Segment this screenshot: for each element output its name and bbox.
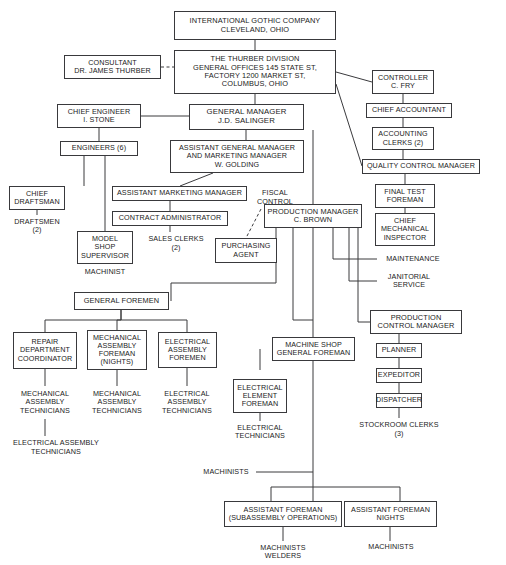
org-node-mechanical-assembly-technicians-2: MECHANICAL ASSEMBLY TECHNICIANS [85, 386, 149, 419]
org-node-chief-accountant: CHIEF ACCOUNTANT [366, 103, 452, 118]
org-node-electrical-assembly-foremen: ELECTRICAL ASSEMBLY FOREMEN [158, 332, 217, 368]
connector [358, 228, 370, 322]
org-node-final-test-foreman: FINAL TEST FOREMAN [375, 184, 435, 208]
org-chart: INTERNATIONAL GOTHIC COMPANY CLEVELAND, … [0, 0, 506, 565]
org-node-chief-mechanical-inspector: CHIEF MECHANICAL INSPECTOR [375, 213, 435, 246]
org-node-production-manager: PRODUCTION MANAGER C. BROWN [264, 204, 362, 228]
connector [336, 72, 372, 82]
org-node-contract-administrator: CONTRACT ADMINISTRATOR [112, 211, 228, 226]
org-node-maintenance: MAINTENANCE [377, 253, 449, 265]
connector [336, 84, 362, 166]
connector [333, 228, 377, 259]
org-node-stockroom-clerks: STOCKROOM CLERKS (3) [355, 418, 443, 441]
org-node-sales-clerks: SALES CLERKS (2) [142, 232, 210, 255]
org-node-controller: CONTROLLER C. FRY [372, 70, 434, 94]
org-node-expeditor: EXPEDITOR [376, 368, 422, 383]
org-node-assistant-foreman-subassembly: ASSISTANT FOREMAN (SUBASSEMBLY OPERATION… [224, 501, 342, 527]
org-node-machinists-nights: MACHINISTS [360, 541, 422, 553]
org-node-general-manager: GENERAL MANAGER J.D. SALINGER [189, 104, 304, 130]
org-node-dispatcher: DISPATCHER [376, 393, 422, 408]
org-node-mechanical-assembly-technicians-1: MECHANICAL ASSEMBLY TECHNICIANS [13, 386, 77, 419]
org-node-planner: PLANNER [376, 343, 422, 358]
org-node-electrical-element-foreman: ELECTRICAL ELEMENT FOREMAN [233, 379, 287, 413]
org-node-assistant-general-manager: ASSISTANT GENERAL MANAGER AND MARKETING … [170, 140, 304, 173]
org-node-thurber-division: THE THURBER DIVISION GENERAL OFFICES 145… [174, 50, 336, 94]
org-node-chief-engineer: CHIEF ENGINEER I. STONE [57, 104, 141, 128]
org-node-quality-control-manager: QUALITY CONTROL MANAGER [362, 159, 480, 174]
org-node-international-gothic-company: INTERNATIONAL GOTHIC COMPANY CLEVELAND, … [174, 11, 336, 40]
org-node-machine-shop-general-foreman: MACHINE SHOP GENERAL FOREMAN [272, 337, 355, 361]
org-node-consultant: CONSULTANT DR. JAMES THURBER [64, 55, 161, 79]
connector-dashed [246, 209, 261, 238]
org-node-repair-department-coordinator: REPAIR DEPARTMENT COORDINATOR [13, 332, 77, 369]
org-node-mechanical-assembly-foreman: MECHANICAL ASSEMBLY FOREMAN (NIGHTS) [87, 330, 147, 370]
connector [117, 320, 121, 330]
org-node-general-foremen: GENERAL FOREMEN [74, 292, 169, 310]
org-node-machinist: MACHINIST [77, 266, 133, 278]
org-node-accounting-clerks: ACCOUNTING CLERKS (2) [372, 127, 434, 150]
org-node-chief-draftsman: CHIEF DRAFTSMAN [9, 186, 65, 210]
org-node-model-shop-supervisor: MODEL SHOP SUPERVISOR [77, 231, 133, 264]
connector [349, 228, 377, 281]
org-node-electrical-technicians: ELECTRICAL TECHNICIANS [231, 421, 289, 443]
org-node-machinists-trunk: MACHINISTS [196, 466, 256, 478]
org-node-assistant-marketing-manager: ASSISTANT MARKETING MANAGER [112, 186, 247, 201]
org-node-janitorial-service: JANITORIAL SERVICE [377, 270, 441, 292]
org-node-electrical-assembly-technicians-2: ELECTRICAL ASSEMBLY TECHNICIANS [8, 436, 104, 459]
org-node-machinists-welders: MACHINISTS WELDERS [251, 541, 315, 563]
org-node-assistant-foreman-nights: ASSISTANT FOREMAN NIGHTS [344, 501, 437, 527]
org-node-production-control-manager: PRODUCTION CONTROL MANAGER [370, 310, 462, 334]
org-node-draftsmen: DRAFTSMEN (2) [9, 215, 65, 237]
connector [45, 310, 121, 332]
org-node-engineers: ENGINEERS (6) [60, 141, 138, 156]
connector [180, 173, 213, 186]
connector [293, 228, 313, 320]
org-node-purchasing-agent: PURCHASING AGENT [215, 238, 277, 263]
org-node-electrical-assembly-technicians-1: ELECTRICAL ASSEMBLY TECHNICIANS [156, 386, 218, 419]
